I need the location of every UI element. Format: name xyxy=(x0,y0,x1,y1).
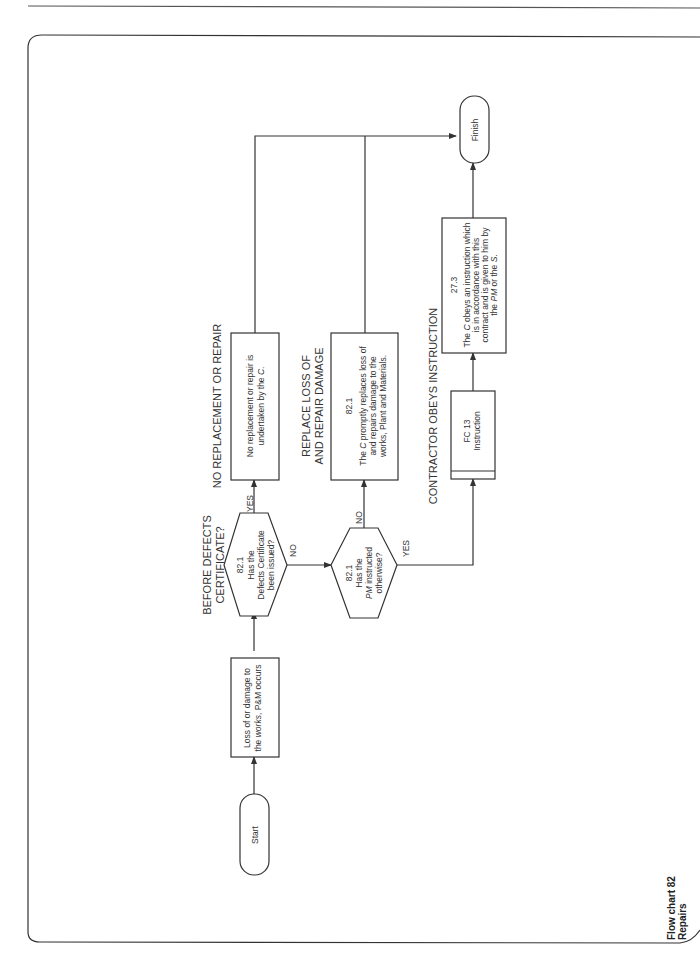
fc13-line2: Instruction xyxy=(472,411,482,450)
node-no-repair: No replacement or repair is undertaken b… xyxy=(231,333,279,480)
finish-label: Finish xyxy=(470,118,480,141)
replace-line2: and repairs damage to the xyxy=(368,356,378,456)
node-obey-instruction: 27.3 The C obeys an instruction which is… xyxy=(442,218,506,353)
decision-pm-instructed: 82.1 Has the PM instructed otherwise? xyxy=(331,528,397,618)
decision1-line2: Defects Certificate xyxy=(256,530,266,600)
decision1-line3: been issued? xyxy=(266,539,276,590)
norepair-line2: undertaken by the C. xyxy=(256,367,266,446)
caption-line1: Flow chart 82 xyxy=(666,876,677,940)
node-finish: Finish xyxy=(460,96,489,163)
decision2-clause: 82.1 xyxy=(344,564,354,581)
replace-line3: works, Plant and Materials. xyxy=(378,355,388,458)
label-no-2: NO xyxy=(354,511,364,524)
caption-line2: Repairs xyxy=(677,903,688,940)
heading-no-replacement: NO REPLACEMENT OR REPAIR xyxy=(211,324,223,489)
label-yes-1: YES xyxy=(245,495,255,512)
label-yes-2: YES xyxy=(401,540,411,557)
norepair-line1: No replacement or repair is xyxy=(245,355,255,458)
node-loss-event: Loss of or damage to the works, P&M occu… xyxy=(231,658,279,757)
obey-clause: 27.3 xyxy=(449,276,459,293)
heading-before-defects-2: CERTIFICATE? xyxy=(214,526,226,603)
edge-norepair-to-finish xyxy=(255,136,456,333)
heading-replace-loss-2: AND REPAIR DAMAGE xyxy=(313,347,325,464)
decision2-line2: PM instructed xyxy=(364,547,374,599)
replace-line1: The C promptly replaces loss of xyxy=(358,346,368,466)
decision2-line3: otherwise? xyxy=(374,552,384,593)
replace-clause: 82.1 xyxy=(344,397,354,414)
decision1-line1: Has the xyxy=(246,550,256,580)
node-replace-repair: 82.1 The C promptly replaces loss of and… xyxy=(331,333,398,480)
fc13-line1: FC 13 xyxy=(462,419,472,442)
flowchart-82-repairs: Start Loss of or damage to the works, P&… xyxy=(0,0,700,954)
heading-contractor-obeys: CONTRACTOR OBEYS INSTRUCTION xyxy=(427,308,439,505)
decision2-line1: Has the xyxy=(354,558,364,588)
loss-line1: Loss of or damage to xyxy=(242,668,252,748)
decision-defects-certificate: 82.1 Has the Defects Certificate been is… xyxy=(224,513,287,616)
loss-line2: the works, P&M occurs xyxy=(253,665,263,752)
node-fc13-instruction: FC 13 Instruction xyxy=(451,391,495,479)
obey-line4: the PM or the S. xyxy=(489,254,499,315)
heading-replace-loss-1: REPLACE LOSS OF xyxy=(300,355,312,457)
header-rule xyxy=(28,6,700,8)
decision1-clause: 82.1 xyxy=(235,556,245,573)
start-label: Start xyxy=(250,825,260,844)
heading-before-defects-1: BEFORE DEFECTS xyxy=(201,515,213,615)
label-no-1: NO xyxy=(288,544,298,557)
node-start: Start xyxy=(240,794,269,875)
